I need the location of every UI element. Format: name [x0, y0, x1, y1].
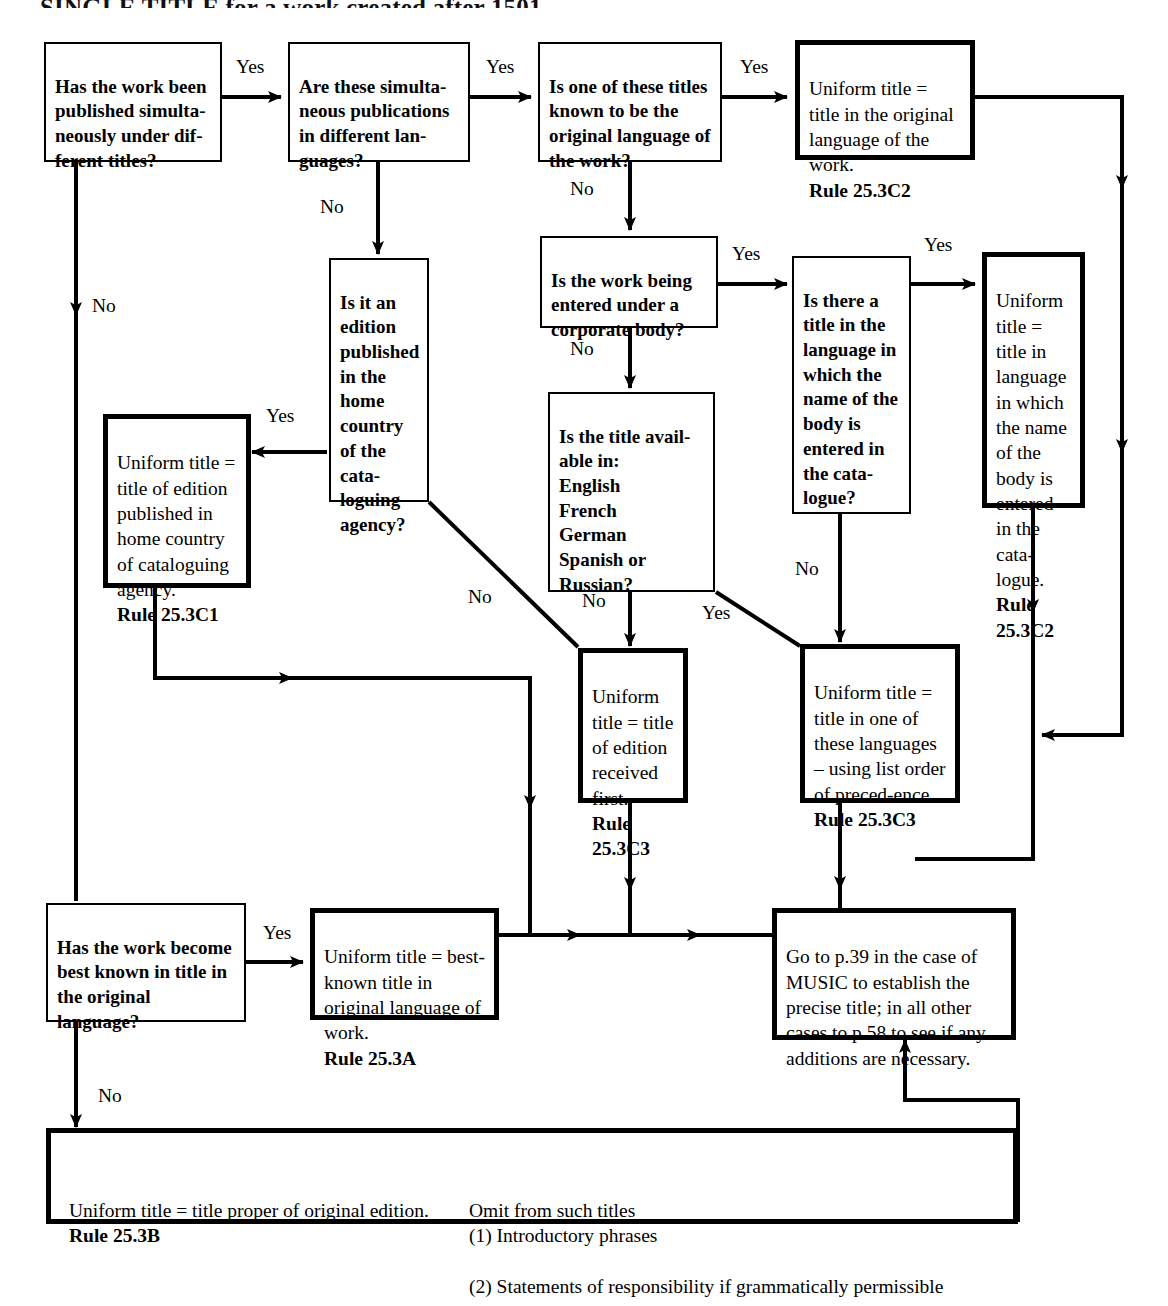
edge-label-no-title-available: No	[582, 590, 606, 612]
node-rule: Rule 25.3C3	[592, 811, 675, 862]
node-question-title-available-languages[interactable]: Is the title avail-able in: English Fren…	[548, 392, 715, 592]
page-title: SINGLE TITLE for a work created after 15…	[40, 0, 542, 8]
node-text: Go to p.39 in the case of MUSIC to estab…	[786, 946, 986, 1068]
edge-label-no-corporate-body: No	[570, 338, 594, 360]
node-text: Uniform title = title proper of original…	[69, 1200, 429, 1221]
node-question-best-known-original-language[interactable]: Has the work become best known in title …	[46, 903, 246, 1022]
node-text: Is the title avail-able in: English Fren…	[559, 426, 690, 595]
node-text: Is the work being entered under a corpor…	[551, 270, 692, 340]
node-text: Are these simulta-neous publications in …	[299, 76, 449, 171]
node-text: Uniform title = title of edition publish…	[117, 452, 235, 600]
node-text: Uniform title = title in language in whi…	[996, 290, 1067, 590]
omit-item-2: (2) Statements of responsibility if gram…	[469, 1274, 1005, 1299]
edge-label-no-simultaneous: No	[92, 295, 116, 317]
node-text: Has the work been published simulta-neou…	[55, 76, 206, 171]
edge-label-yes-title-available: Yes	[702, 602, 730, 624]
node-answer-title-proper-terminal[interactable]: Uniform title = title proper of original…	[46, 1128, 1018, 1224]
node-answer-edition-received-first[interactable]: Uniform title = title of edition receive…	[578, 648, 688, 803]
node-question-original-language[interactable]: Is one of these titles known to be the o…	[538, 42, 722, 162]
node-question-body-language[interactable]: Is there a title in the language in whic…	[792, 256, 911, 514]
edge-label-yes-best-known: Yes	[263, 922, 291, 944]
node-answer-list-order-precedence[interactable]: Uniform title = title in one of these la…	[800, 644, 960, 803]
node-text: Has the work become best known in title …	[57, 937, 232, 1032]
omit-heading: Omit from such titles	[469, 1200, 635, 1221]
node-rule: Rule 25.3C1	[117, 602, 238, 627]
node-question-simultaneous-titles[interactable]: Has the work been published simulta-neou…	[44, 42, 222, 162]
node-answer-home-country-title[interactable]: Uniform title = title of edition publish…	[103, 414, 251, 588]
edge-label-yes-home-country: Yes	[266, 405, 294, 427]
node-text: Is it an edition published in the home c…	[340, 292, 419, 535]
node-answer-goto-page-39[interactable]: Go to p.39 in the case of MUSIC to estab…	[772, 908, 1016, 1040]
edge-label-yes-languages: Yes	[486, 56, 514, 78]
edge-label-no-languages: No	[320, 196, 344, 218]
node-text: Uniform title = title in one of these la…	[814, 682, 946, 804]
node-rule: Rule 25.3B	[69, 1223, 469, 1248]
node-answer-best-known-title[interactable]: Uniform title = best-known title in orig…	[310, 908, 499, 1020]
edge-label-no-best-known: No	[98, 1085, 122, 1107]
node-rule: Rule 25.3C2	[809, 178, 962, 203]
edge-label-yes-original-language: Yes	[740, 56, 768, 78]
node-question-home-country-edition[interactable]: Is it an edition published in the home c…	[329, 258, 429, 502]
node-rule: Rule 25.3A	[324, 1046, 486, 1071]
node-answer-original-language-title[interactable]: Uniform title = title in the original la…	[795, 40, 975, 160]
omit-item-1: (1) Introductory phrases	[469, 1223, 1005, 1248]
edge-label-no-home-country: No	[468, 586, 492, 608]
edge-label-no-original-language: No	[570, 178, 594, 200]
flowchart-page: SINGLE TITLE for a work created after 15…	[0, 0, 1168, 1306]
edge-label-yes-simultaneous: Yes	[236, 56, 264, 78]
node-text: Is one of these titles known to be the o…	[549, 76, 711, 171]
edge-label-yes-corporate-body: Yes	[732, 243, 760, 265]
node-text: Uniform title = title of edition receive…	[592, 686, 673, 808]
edge-label-no-body-language: No	[795, 558, 819, 580]
node-text: Uniform title = title in the original la…	[809, 78, 954, 175]
node-rule: Rule 25.3C3	[814, 807, 947, 832]
edge-label-yes-body-language: Yes	[924, 234, 952, 256]
node-question-corporate-body[interactable]: Is the work being entered under a corpor…	[540, 236, 718, 328]
node-rule: Rule 25.3C2	[996, 592, 1072, 643]
node-question-different-languages[interactable]: Are these simulta-neous publications in …	[288, 42, 470, 162]
node-text: Uniform title = best-known title in orig…	[324, 946, 485, 1043]
node-answer-body-language-title[interactable]: Uniform title = title in language in whi…	[982, 252, 1085, 508]
node-text: Is there a title in the language in whic…	[803, 290, 898, 509]
